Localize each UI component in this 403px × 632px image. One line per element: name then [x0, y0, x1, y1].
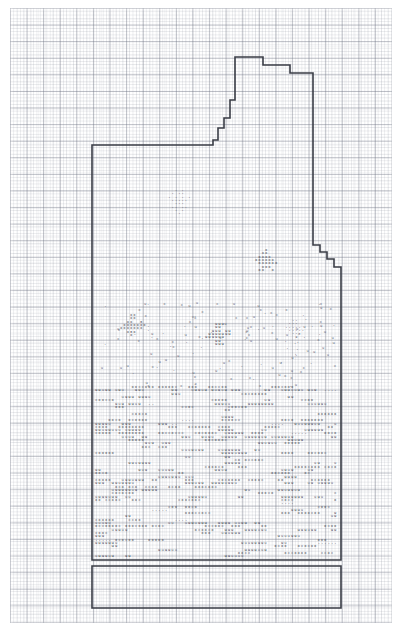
stitch-cell: . [188, 195, 191, 198]
stitch-cell: u [261, 541, 263, 544]
stitch-cell: . [165, 508, 168, 511]
stitch-cell: . [302, 313, 305, 316]
stitch-cell: x [102, 451, 104, 454]
stitch-cell: u [288, 395, 290, 398]
stitch-cell: u [112, 481, 114, 484]
stitch-cell: u [291, 356, 293, 359]
stitch-cell: x [128, 518, 130, 521]
stitch-cell: x [201, 310, 203, 313]
stitch-cell: x [105, 524, 107, 527]
stitch-cell: x [334, 491, 336, 494]
stitch-cell: x [235, 316, 237, 319]
stitch-cell: u [145, 468, 147, 471]
stitch-cell: u [294, 495, 296, 498]
stitch-cell: u [218, 342, 220, 345]
stitch-cell: . [289, 384, 292, 387]
stitch-cell: x [168, 505, 170, 508]
stitch-cell: x [331, 412, 333, 415]
stitch-cell: x [112, 451, 114, 454]
stitch-cell: x [188, 511, 190, 514]
stitch-cell: x [259, 384, 261, 387]
stitch-cell: u [228, 481, 230, 484]
stitch-cell: u [148, 395, 150, 398]
stitch-cell: x [238, 405, 240, 408]
stitch-cell: u [231, 388, 233, 391]
stitch-cell: x [331, 425, 333, 428]
stitch-cell: x [300, 370, 302, 373]
stitch-cell: . [271, 324, 274, 327]
stitch-cell: x [180, 384, 182, 387]
stitch-cell: x [188, 505, 190, 508]
stitch-cell: u [331, 481, 333, 484]
stitch-cell: x [275, 313, 277, 316]
stitch-cell: x [132, 518, 134, 521]
stitch-cell: x [265, 265, 267, 268]
stitch-cell: x [132, 385, 134, 388]
stitch-cell: u [294, 475, 296, 478]
stitch-cell: u [112, 554, 114, 557]
stitch-cell: x [191, 511, 193, 514]
stitch-cell: x [195, 431, 197, 434]
stitch-cell: x [188, 498, 190, 501]
stitch-cell: u [118, 388, 120, 391]
stitch-cell: x [268, 491, 270, 494]
stitch-cell: u [314, 388, 316, 391]
stitch-cell: x [258, 261, 260, 264]
stitch-cell: u [218, 388, 220, 391]
stitch-cell: x [95, 524, 97, 527]
stitch-cell: x [108, 498, 110, 501]
stitch-cell: x [272, 261, 274, 264]
stitch-cell: u [168, 468, 170, 471]
stitch-cell: x [290, 376, 292, 379]
stitch-cell: x [241, 392, 243, 395]
stitch-cell: u [221, 481, 223, 484]
stitch-cell: u [258, 528, 260, 531]
stitch-cell: . [184, 324, 187, 327]
pattern-sheet: ........................xxxxxxxxxxxxxxxx… [0, 0, 403, 632]
stitch-cell: u [321, 428, 323, 431]
stitch-cell: . [200, 345, 203, 348]
stitch-cell: u [224, 388, 226, 391]
stitch-cell: u [161, 422, 163, 425]
stitch-cell: u [307, 422, 309, 425]
stitch-cell: x [311, 511, 313, 514]
stitch-cell: u [138, 402, 140, 405]
stitch-cell: u [294, 388, 296, 391]
stitch-cell: u [95, 554, 97, 557]
stitch-cell: x [128, 438, 130, 441]
stitch-cell: u [234, 554, 236, 557]
stitch-cell: x [161, 524, 163, 527]
stitch-cell: u [185, 448, 187, 451]
stitch-cell: u [317, 422, 319, 425]
stitch-cell: x [185, 505, 187, 508]
stitch-cell: . [130, 329, 133, 332]
stitch-cell: x [123, 326, 125, 329]
stitch-cell: x [201, 485, 203, 488]
stitch-cell: u [276, 337, 278, 340]
stitch-cell: u [135, 461, 137, 464]
stitch-cell: u [253, 315, 255, 318]
stitch-cell: x [158, 431, 160, 434]
stitch-cell: x [125, 538, 127, 541]
stitch-cell: x [314, 511, 316, 514]
stitch-cell: u [221, 451, 223, 454]
stitch-cell: . [281, 422, 284, 425]
stitch-cell: u [254, 448, 256, 451]
stitch-cell: u [171, 392, 173, 395]
stitch-cell: u [132, 395, 134, 398]
stitch-cell: u [251, 548, 253, 551]
stitch-cell: x [175, 431, 177, 434]
stitch-cell: u [263, 326, 265, 329]
stitch-cell: . [133, 332, 136, 335]
stitch-cell: x [215, 485, 217, 488]
stitch-cell: x [248, 392, 250, 395]
stitch-cell: x [163, 302, 165, 305]
stitch-cell: x [317, 505, 319, 508]
stitch-cell: x [248, 551, 250, 554]
stitch-cell: u [241, 495, 243, 498]
stitch-cell: x [171, 425, 173, 428]
stitch-cell: u [101, 366, 103, 369]
stitch-cell: x [275, 261, 277, 264]
stitch-cell: x [141, 425, 143, 428]
stitch-cell: x [211, 465, 213, 468]
